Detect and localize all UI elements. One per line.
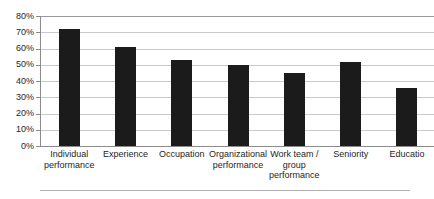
x-axis-category-label-line: Individual xyxy=(37,149,101,160)
x-axis-line xyxy=(40,146,434,147)
bar xyxy=(59,29,80,146)
x-axis-category-label-line: Organizational xyxy=(206,149,270,160)
chart-plot-area: 80%70%60%50%40%30%20%10%0% Individualper… xyxy=(0,0,434,186)
x-axis-category-label-line: performance xyxy=(37,160,101,171)
bar xyxy=(115,47,136,146)
bar xyxy=(228,65,249,146)
x-axis-category-label-line: performance xyxy=(262,170,326,181)
bar-series xyxy=(0,16,434,146)
x-axis-category-label: Seniority xyxy=(319,149,383,160)
bar xyxy=(396,88,417,147)
bar-chart-figure: 80%70%60%50%40%30%20%10%0% Individualper… xyxy=(0,0,434,199)
y-axis-tick-mark xyxy=(36,146,41,147)
x-axis-category-label: Experience xyxy=(93,149,157,160)
bottom-separator-rule xyxy=(40,190,410,191)
x-axis-category-label-line: Occupation xyxy=(150,149,214,160)
x-axis-category-label: Individualperformance xyxy=(37,149,101,170)
x-axis-category-label-line: Experience xyxy=(93,149,157,160)
x-axis-category-label-line: performance xyxy=(206,160,270,171)
x-axis-category-label: Organizationalperformance xyxy=(206,149,270,170)
x-axis-category-labels: IndividualperformanceExperienceOccupatio… xyxy=(0,149,434,186)
x-axis-category-label-line: Work team / xyxy=(262,149,326,160)
bar xyxy=(171,60,192,146)
x-axis-category-label-line: Educatio xyxy=(375,149,434,160)
bar xyxy=(340,62,361,147)
x-axis-category-label-line: Seniority xyxy=(319,149,383,160)
x-axis-category-label: Occupation xyxy=(150,149,214,160)
x-axis-category-label-line: group xyxy=(262,160,326,171)
x-axis-category-label: Educatio xyxy=(375,149,434,160)
x-axis-category-label: Work team /groupperformance xyxy=(262,149,326,181)
bar xyxy=(284,73,305,146)
